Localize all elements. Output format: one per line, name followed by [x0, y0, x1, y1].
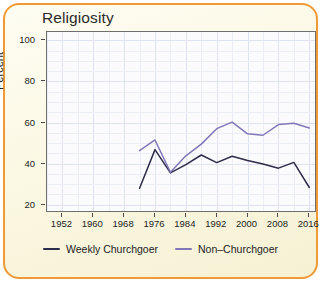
x-axis-tick-label: 2016 — [298, 218, 319, 229]
plot-area — [46, 31, 316, 212]
y-axis-tick-label: 20 — [24, 198, 35, 209]
x-axis-tick-label: 1968 — [113, 218, 134, 229]
x-axis-tick-label: 1976 — [143, 218, 164, 229]
series-line-weekly-churchgoer — [140, 150, 310, 189]
x-axis-tick-mark — [277, 213, 278, 217]
y-axis-tick-mark — [41, 39, 45, 40]
y-axis-tick-label: 100 — [19, 34, 35, 45]
y-axis-tick-label: 60 — [24, 116, 35, 127]
x-axis-tick-mark — [216, 213, 217, 217]
x-axis-tick-label: 1960 — [82, 218, 103, 229]
x-axis-tick-label: 1984 — [174, 218, 195, 229]
legend-item-weekly-churchgoer[interactable]: Weekly Churchgoer — [43, 243, 158, 255]
y-axis-tick-mark — [41, 204, 45, 205]
x-axis-tick-mark — [61, 213, 62, 217]
x-axis-tick-mark — [185, 213, 186, 217]
x-axis-tick-label: 1992 — [205, 218, 226, 229]
x-axis-tick-mark — [247, 213, 248, 217]
legend-label-weekly-churchgoer: Weekly Churchgoer — [66, 243, 158, 255]
y-axis-label: Percent — [0, 21, 5, 121]
chart-title: Religiosity — [42, 9, 114, 27]
chart-legend: Weekly Churchgoer Non–Churchgoer — [5, 243, 316, 255]
x-axis-tick-mark — [154, 213, 155, 217]
y-axis-tick-mark — [41, 122, 45, 123]
x-axis-tick-label: 1952 — [51, 218, 72, 229]
x-axis-tick-mark — [308, 213, 309, 217]
y-axis-tick-label: 80 — [24, 75, 35, 86]
legend-item-non-churchgoer[interactable]: Non–Churchgoer — [175, 243, 278, 255]
y-axis-tick-label: 40 — [24, 157, 35, 168]
chart-card: Religiosity 2040608010019521960196819761… — [3, 3, 318, 279]
legend-swatch-weekly-churchgoer — [43, 248, 60, 250]
series-lines — [47, 32, 316, 212]
x-axis-tick-mark — [92, 213, 93, 217]
y-axis-tick-mark — [41, 163, 45, 164]
legend-label-non-churchgoer: Non–Churchgoer — [198, 243, 278, 255]
y-axis-tick-mark — [41, 80, 45, 81]
x-axis-tick-mark — [123, 213, 124, 217]
x-axis-tick-label: 2008 — [267, 218, 288, 229]
legend-swatch-non-churchgoer — [175, 248, 192, 250]
x-axis-tick-label: 2000 — [236, 218, 257, 229]
